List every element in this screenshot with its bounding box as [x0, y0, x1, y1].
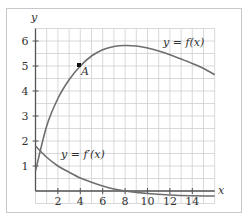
y-tick-label: 1 [22, 160, 29, 173]
y-tick-label: 6 [22, 35, 29, 48]
x-tick-label: 8 [122, 195, 129, 208]
y-tick-label: 5 [22, 60, 29, 73]
f-curve-label: y = f(x) [162, 36, 204, 49]
y-tick-label: 3 [22, 110, 29, 123]
y-tick-label: 4 [22, 85, 29, 98]
fprime-curve-label: y = f′(x) [60, 148, 105, 161]
chart-plot: 2468101214123456 y x y = f(x) y = f′(x) … [0, 0, 248, 221]
x-tick-label: 14 [185, 195, 199, 208]
x-tick-label: 2 [54, 195, 61, 208]
y-tick-label: 2 [22, 135, 29, 148]
x-axis-label: x [218, 184, 225, 197]
x-tick-label: 12 [163, 195, 177, 208]
grid-lines [36, 29, 215, 204]
x-tick-label: 6 [99, 195, 106, 208]
x-tick-label: 4 [77, 195, 84, 208]
x-tick-label: 10 [141, 195, 155, 208]
y-axis-label: y [30, 11, 38, 24]
point-a-label: A [80, 65, 89, 78]
